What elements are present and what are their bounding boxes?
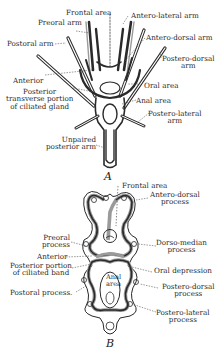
label-posterior-portion-ciliated-band: Posterior portion of ciliated band [10, 262, 72, 277]
label-oral-area: Oral area [144, 82, 178, 89]
label-preoral-arm: Preoral arm [38, 19, 82, 26]
label-anal-area-a: Anal area [136, 97, 171, 104]
figure-a-caption: A [104, 170, 112, 183]
figure-b-drawing [82, 186, 139, 334]
label-antero-dorsal-process: Antero-dorsal process [150, 191, 200, 206]
label-postero-dorsal-arm: Postero-dorsal arm [162, 55, 215, 70]
label-postero-dorsal-process: Postero-dorsal process [162, 283, 215, 298]
label-antero-lateral-arm: Antero-lateral arm [131, 12, 199, 19]
label-postero-lateral-process: Postero-lateral process [156, 309, 210, 324]
label-unpaired-posterior-arm: Unpaired posterior arm [46, 136, 96, 151]
label-anal-area-b: Anal area [106, 274, 121, 288]
label-postoral-process: Postoral process. [10, 289, 72, 296]
label-postoral-arm: Postoral arm [7, 40, 54, 47]
label-oral-depression: Oral depression [154, 267, 212, 274]
label-antero-dorsal-arm: Antero-dorsal arm [146, 34, 213, 41]
label-anterior-b: Anterior [37, 253, 67, 260]
label-frontal-area-b: Frontal area [122, 182, 167, 189]
label-dorso-median-process: Dorso-median process [156, 239, 207, 254]
label-preoral-process: Preoral process [30, 234, 70, 249]
label-anterior-a: Anterior [13, 77, 43, 84]
label-postero-lateral-arm: Postero-lateral arm [148, 110, 202, 125]
label-posterior-transverse-portion: Posterior transverse portion of ciliated… [6, 88, 73, 110]
label-frontal-area-a: Frontal area [66, 9, 111, 16]
figure-b-caption: B [106, 337, 114, 350]
